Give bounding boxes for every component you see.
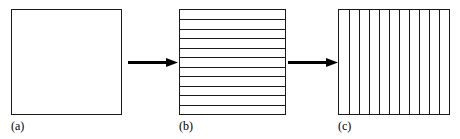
panel-label-c: (c) [338,120,351,133]
arrow-a-to-b [128,57,178,68]
stripe-line-horizontal [180,57,285,58]
stripe-line-vertical [409,10,410,114]
stripe-line-vertical [439,10,440,114]
stripe-line-horizontal [180,48,285,49]
stripe-line-horizontal [180,76,285,77]
stripe-line-vertical [389,10,390,114]
panel-label-a: (a) [11,120,24,133]
stripe-line-vertical [379,10,380,114]
stripe-line-horizontal [180,105,285,106]
panel-label-b: (b) [179,120,193,133]
stripe-line-horizontal [180,95,285,96]
arrow-b-to-c [288,57,338,68]
stripe-line-vertical [369,10,370,114]
figure-diagram: (a) (b) (c) [0,0,460,139]
square-c-vertical-stripes [338,9,450,115]
stripe-line-horizontal [180,67,285,68]
square-b-horizontal-stripes [179,9,286,115]
stripe-line-vertical [399,10,400,114]
stripe-line-vertical [419,10,420,114]
stripe-line-horizontal [180,29,285,30]
stripe-line-vertical [359,10,360,114]
stripe-line-horizontal [180,38,285,39]
stripe-line-vertical [429,10,430,114]
stripe-line-horizontal [180,86,285,87]
stripe-line-vertical [349,10,350,114]
square-a-plain [11,9,122,115]
stripe-line-horizontal [180,19,285,20]
